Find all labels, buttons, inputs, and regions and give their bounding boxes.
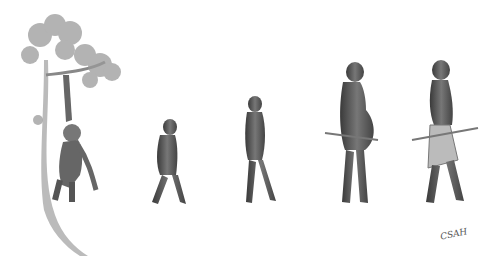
early-human-figure xyxy=(245,96,276,203)
ape-figure xyxy=(55,75,96,202)
illustration-canvas: CSAH xyxy=(0,0,503,266)
small-hominid-figure xyxy=(152,119,186,204)
evolution-illustration xyxy=(0,0,503,266)
pregnant-human-figure xyxy=(325,62,378,203)
modern-human-figure xyxy=(412,60,478,203)
